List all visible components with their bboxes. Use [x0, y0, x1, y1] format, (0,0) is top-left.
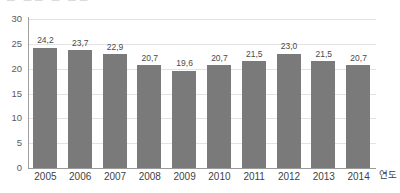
bar-value-label: 23,7: [63, 39, 98, 48]
bar-value-label: 21,5: [237, 50, 272, 59]
bar-value-label: 23,0: [272, 42, 307, 51]
bar-slot: 23,0: [272, 19, 307, 168]
bar-chart: ▬ ▬▬ ▬ ▬▬ 302520151050 24,223,722,920,71…: [0, 0, 400, 193]
bar[interactable]: [311, 61, 335, 168]
y-axis-tick-label: 15: [0, 89, 22, 99]
bar-value-label: 20,7: [341, 54, 376, 63]
bar-slot: 23,7: [63, 19, 98, 168]
bar-slot: 20,7: [341, 19, 376, 168]
bar[interactable]: [172, 71, 196, 168]
x-axis-tick-label: 2014: [339, 172, 379, 182]
bar-slot: 24,2: [28, 19, 63, 168]
bar-slot: 21,5: [306, 19, 341, 168]
top-cut-text: ▬ ▬▬ ▬ ▬▬: [6, 0, 90, 4]
y-axis-tick-label: 0: [0, 163, 22, 173]
bar-series: 24,223,722,920,719,620,721,523,021,520,7: [28, 19, 376, 168]
bar[interactable]: [207, 65, 231, 168]
bar[interactable]: [346, 65, 370, 168]
bar-value-label: 19,6: [167, 59, 202, 68]
bar-value-label: 24,2: [28, 36, 63, 45]
bar[interactable]: [137, 65, 161, 168]
bar-value-label: 21,5: [306, 50, 341, 59]
bar[interactable]: [68, 50, 92, 168]
bar-value-label: 20,7: [202, 54, 237, 63]
bar[interactable]: [33, 48, 57, 168]
bar[interactable]: [277, 54, 301, 168]
y-axis-tick-label: 25: [0, 39, 22, 49]
x-axis-line: [28, 168, 376, 169]
bar-value-label: 20,7: [132, 54, 167, 63]
x-axis-title: 연도: [379, 170, 397, 180]
y-axis-tick-label: 10: [0, 113, 22, 123]
bar-slot: 19,6: [167, 19, 202, 168]
bar-slot: 21,5: [237, 19, 272, 168]
top-cut-text-artifact: ▬ ▬▬ ▬ ▬▬: [0, 0, 400, 7]
bar-slot: 20,7: [202, 19, 237, 168]
bar[interactable]: [103, 54, 127, 168]
y-axis-tick-label: 30: [0, 14, 22, 24]
y-axis-tick-label: 20: [0, 64, 22, 74]
bar-slot: 20,7: [132, 19, 167, 168]
y-axis-tick-label: 5: [0, 138, 22, 148]
bar-value-label: 22,9: [98, 43, 133, 52]
bar[interactable]: [242, 61, 266, 168]
bar-slot: 22,9: [98, 19, 133, 168]
